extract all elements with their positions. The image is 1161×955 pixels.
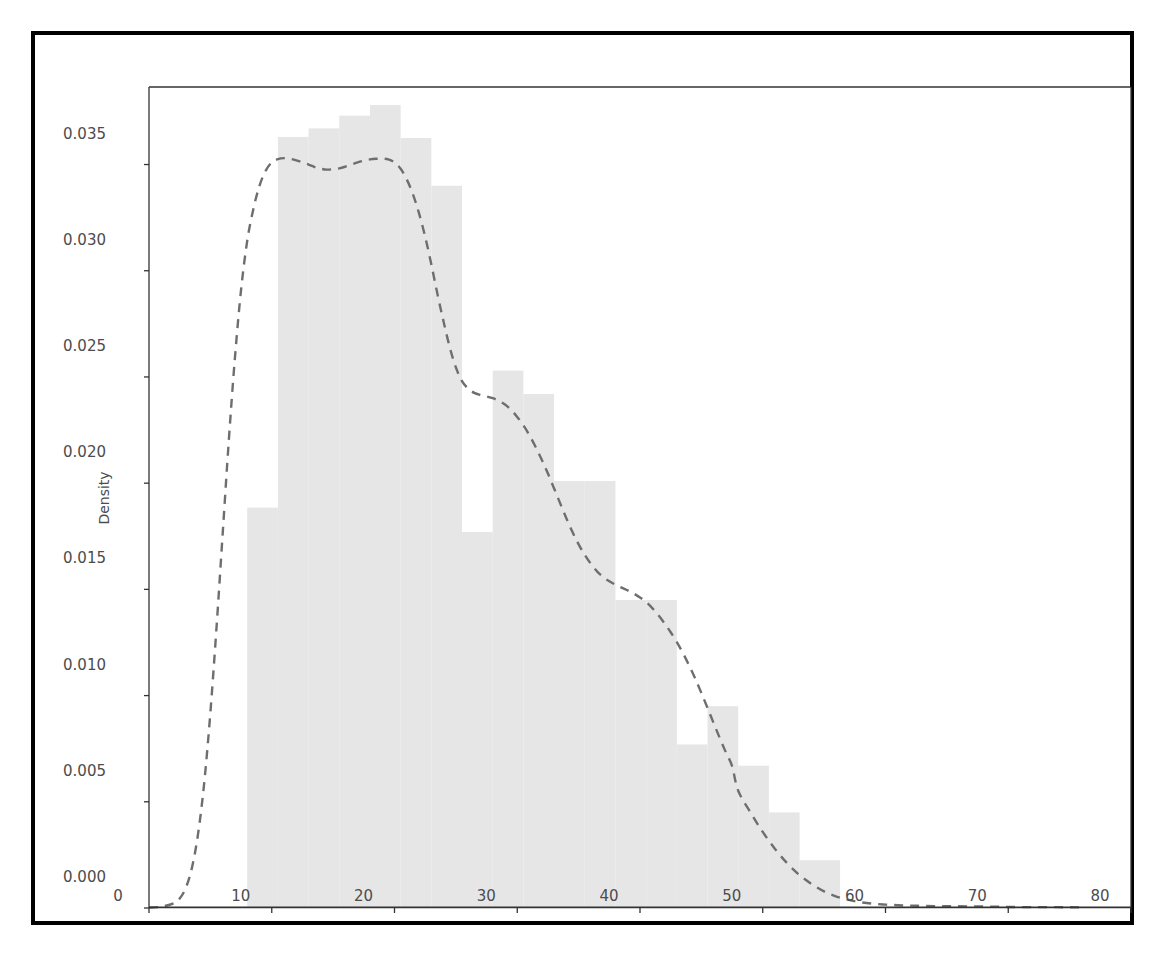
y-tick-label: 0.005 [35, 763, 106, 778]
y-tick-label: 0.035 [35, 126, 106, 141]
histogram-bar [247, 508, 278, 908]
y-tick-label: 0.010 [35, 657, 106, 672]
histogram-bar [708, 706, 739, 908]
histogram-bar [431, 186, 462, 908]
figure-outer-frame: 0.0000.0050.0100.0150.0200.0250.0300.035… [31, 31, 1134, 925]
histogram-bar [585, 481, 616, 908]
histogram-bars [247, 105, 840, 908]
histogram-bar [462, 532, 493, 908]
histogram-bar [339, 116, 370, 908]
histogram-bar [738, 766, 769, 908]
histogram-bar [278, 137, 309, 908]
x-tick-label: 50 [722, 889, 741, 904]
x-tick-label: 0 [113, 889, 123, 904]
histogram-bar [309, 128, 340, 908]
y-axis-label: Density [96, 471, 112, 524]
histogram-bar [615, 600, 646, 908]
figure-root: 0.0000.0050.0100.0150.0200.0250.0300.035… [0, 0, 1161, 955]
y-tick-label: 0.000 [35, 870, 106, 885]
y-tick-label: 0.015 [35, 551, 106, 566]
histogram-kde-plot [149, 87, 1131, 908]
x-tick-label: 20 [354, 889, 373, 904]
x-tick-label: 80 [1090, 889, 1109, 904]
histogram-bar [677, 744, 708, 908]
histogram-bar [523, 394, 554, 908]
histogram-bar [800, 860, 841, 908]
x-tick-label: 70 [968, 889, 987, 904]
histogram-bar [493, 371, 524, 908]
histogram-bar [370, 105, 401, 908]
x-tick-label: 40 [599, 889, 618, 904]
x-tick-label: 10 [231, 889, 250, 904]
histogram-bar [401, 138, 432, 908]
y-tick-label: 0.025 [35, 338, 106, 353]
y-tick-label: 0.030 [35, 232, 106, 247]
x-tick-label: 30 [477, 889, 496, 904]
plot-area [149, 87, 1131, 908]
y-tick-label: 0.020 [35, 445, 106, 460]
x-tick-label: 60 [845, 889, 864, 904]
histogram-bar [646, 600, 677, 908]
